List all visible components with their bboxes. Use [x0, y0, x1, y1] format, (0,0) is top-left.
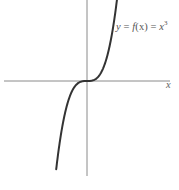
label-arg: (x): [135, 21, 148, 32]
label-equals-2: =: [148, 21, 159, 32]
function-label: y = f(x) = x3: [116, 19, 168, 32]
x-axis-label: x: [166, 79, 171, 90]
label-equals-1: =: [121, 21, 132, 32]
label-exponent: 3: [164, 19, 168, 27]
